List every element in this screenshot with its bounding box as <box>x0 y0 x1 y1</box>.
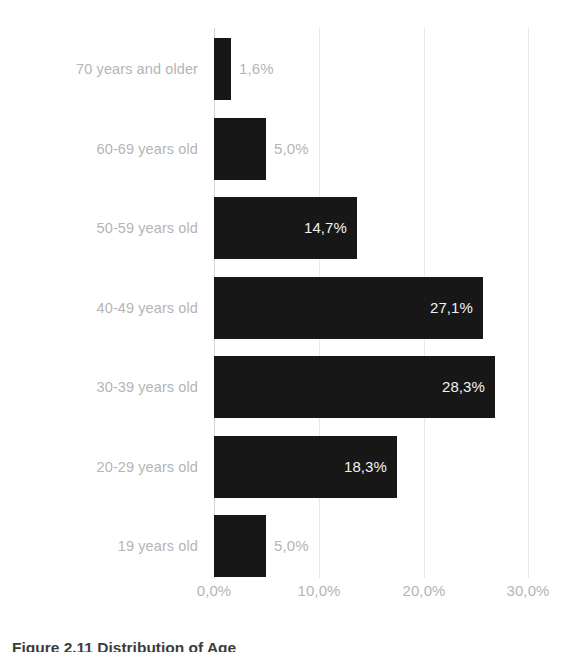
category-label: 30-39 years old <box>97 356 198 418</box>
bar-value-label: 28,3% <box>442 356 485 418</box>
bar-value-label: 1,6% <box>239 38 274 100</box>
category-label: 19 years old <box>118 515 198 577</box>
category-label: 40-49 years old <box>97 277 198 339</box>
x-tick-label: 30,0% <box>506 582 549 599</box>
figure-caption: Figure 2.11 Distribution of Age <box>12 638 552 652</box>
bar-row: 30-39 years old 28,3% <box>214 356 529 418</box>
x-tick-label: 0,0% <box>197 582 232 599</box>
bar-value-label: 27,1% <box>430 277 473 339</box>
plot-area: 70 years and older 1,6% 60-69 years old … <box>214 28 529 578</box>
bar-value-label: 14,7% <box>304 197 347 259</box>
x-tick-label: 20,0% <box>402 582 445 599</box>
bar-value-label: 18,3% <box>344 436 387 498</box>
bar-row: 19 years old 5,0% <box>214 515 529 577</box>
bar-row: 40-49 years old 27,1% <box>214 277 529 339</box>
bar-value-label: 5,0% <box>274 515 309 577</box>
bar-20-29-years-old[interactable]: 18,3% <box>214 436 397 498</box>
bar-row: 70 years and older 1,6% <box>214 38 529 100</box>
bar-30-39-years-old[interactable]: 28,3% <box>214 356 495 418</box>
bar-chart-figure: 70 years and older 1,6% 60-69 years old … <box>0 0 563 652</box>
bar-row: 50-59 years old 14,7% <box>214 197 529 259</box>
bar-70-years-and-older[interactable] <box>214 38 231 100</box>
x-tick-label: 10,0% <box>297 582 340 599</box>
bar-row: 60-69 years old 5,0% <box>214 118 529 180</box>
bar-row: 20-29 years old 18,3% <box>214 436 529 498</box>
bar-50-59-years-old[interactable]: 14,7% <box>214 197 357 259</box>
bar-value-label: 5,0% <box>274 118 309 180</box>
category-label: 50-59 years old <box>97 197 198 259</box>
category-label: 60-69 years old <box>97 118 198 180</box>
bar-40-49-years-old[interactable]: 27,1% <box>214 277 483 339</box>
bar-19-years-old[interactable] <box>214 515 266 577</box>
category-label: 70 years and older <box>76 38 198 100</box>
x-axis: 0,0% 10,0% 20,0% 30,0% <box>214 582 529 608</box>
category-label: 20-29 years old <box>97 436 198 498</box>
bar-60-69-years-old[interactable] <box>214 118 266 180</box>
